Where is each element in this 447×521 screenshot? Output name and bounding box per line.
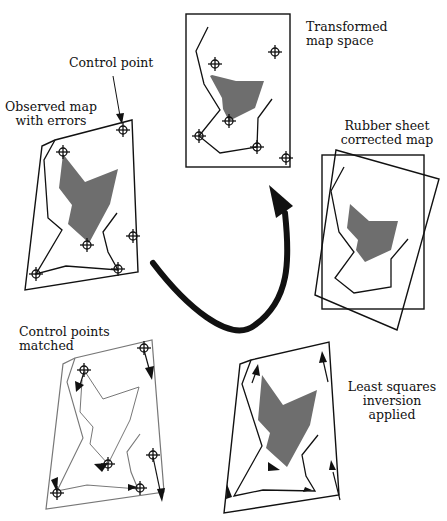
rubber-sheet-panel xyxy=(315,150,439,330)
transformed-map-area xyxy=(210,75,264,121)
least-squares-panel xyxy=(224,342,340,513)
arrowhead-icon xyxy=(252,364,260,376)
label-line: Transformed xyxy=(306,20,388,34)
transformation-arrow xyxy=(153,185,293,330)
label-control-point: Control point xyxy=(69,56,153,70)
arrowhead-icon xyxy=(157,488,165,502)
observed-map-area xyxy=(59,154,118,243)
control-point-icon xyxy=(208,57,222,71)
label-line: corrected map xyxy=(337,133,437,147)
label-control-points-matched: Control points matched xyxy=(19,325,110,353)
arrowhead-icon xyxy=(75,381,84,392)
control-point-icon xyxy=(56,145,70,159)
arrowhead-icon xyxy=(226,484,232,499)
control-point-icon xyxy=(279,151,293,165)
control-point-icon xyxy=(268,45,282,59)
arrowhead-icon xyxy=(145,366,154,380)
control-point-icon xyxy=(192,129,206,143)
arrowhead-icon xyxy=(329,460,336,470)
matched-map-frame xyxy=(46,340,164,509)
label-line: matched xyxy=(19,339,110,353)
matched-map-area-outline xyxy=(80,370,139,464)
label-line: map space xyxy=(306,34,388,48)
rubber-sheet-area xyxy=(347,204,398,262)
arrowhead-icon xyxy=(269,185,293,218)
label-line: Observed map xyxy=(5,100,97,114)
control-point-icon xyxy=(250,140,264,154)
arrowhead-icon xyxy=(128,484,137,491)
transformed-map-panel xyxy=(186,14,293,167)
label-observed-map: Observed map with errors xyxy=(5,100,97,128)
label-least-squares: Least squares inversion applied xyxy=(342,380,442,422)
label-line: Control points xyxy=(19,325,110,339)
label-line: applied xyxy=(342,408,442,422)
label-line: Rubber sheet xyxy=(337,119,437,133)
label-line: Least squares xyxy=(342,380,442,394)
control-point-icon xyxy=(77,363,91,377)
control-point-pointer xyxy=(113,76,120,116)
control-point-icon xyxy=(116,123,130,137)
control-point-icon xyxy=(80,238,94,252)
control-point-icon xyxy=(126,229,140,243)
arrowhead-icon xyxy=(268,462,280,471)
label-line: with errors xyxy=(5,114,97,128)
label-transformed-map: Transformed map space xyxy=(306,20,388,48)
least-squares-area xyxy=(258,375,317,467)
control-points-matched-panel xyxy=(46,340,165,509)
diagram-canvas xyxy=(0,0,447,521)
label-rubber-sheet: Rubber sheet corrected map xyxy=(337,119,437,147)
control-point-icon xyxy=(29,267,43,281)
label-line: inversion xyxy=(342,394,442,408)
arrowhead-icon xyxy=(319,351,327,363)
